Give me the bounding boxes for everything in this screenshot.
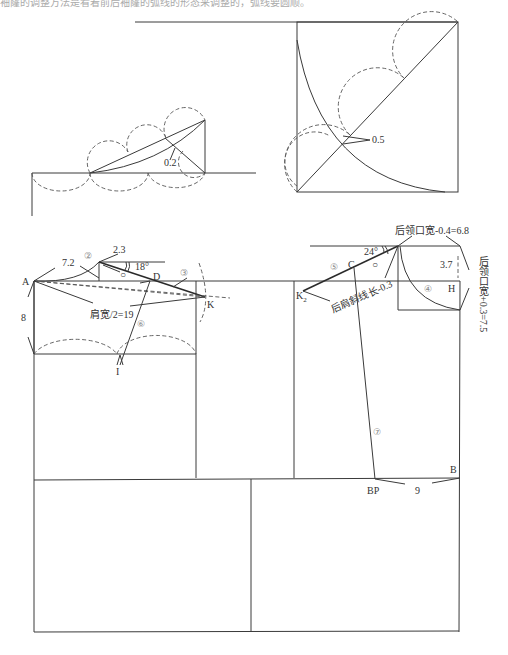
point-b: B xyxy=(450,464,457,475)
dim-9: 9 xyxy=(415,485,420,496)
circle-mark-front: ○ xyxy=(120,269,126,280)
main-pattern xyxy=(34,281,460,632)
front-bodice: A 7.2 2.3 ② 18° ○ D ③ K 8 肩宽/2=19 ⑥ I xyxy=(21,244,230,377)
point-h: H xyxy=(448,283,455,294)
point-i: I xyxy=(116,366,119,377)
back-neck-width-label: 后领口宽-0.4=6.8 xyxy=(395,224,469,236)
point-k: K xyxy=(207,299,215,310)
point-d: D xyxy=(153,271,160,282)
step-6: ⑥ xyxy=(137,319,145,329)
detail-right-neckline: 0.5 xyxy=(135,12,458,192)
step-3: ③ xyxy=(180,268,188,278)
circle-mark-back: ○ xyxy=(372,259,378,270)
label-0-2: 0.2 xyxy=(164,157,177,168)
step-2: ② xyxy=(84,251,92,261)
angle-18: 18° xyxy=(135,261,149,272)
point-c: C xyxy=(348,259,355,270)
step-5: ⑤ xyxy=(330,262,338,272)
dim-2-3: 2.3 xyxy=(113,244,126,255)
angle-24: 24° xyxy=(364,246,378,257)
pattern-diagram: 0.2 0.5 xyxy=(0,0,508,655)
detail-left-armhole: 0.2 xyxy=(32,108,256,216)
point-bp: BP xyxy=(367,485,380,496)
dim-7-2: 7.2 xyxy=(62,257,75,268)
back-neck-depth-label: 后领口宽+0.3=7.5 xyxy=(478,256,489,332)
shoulder-width-label: 肩宽/2=19 xyxy=(90,308,133,320)
dim-8: 8 xyxy=(21,312,26,323)
back-shoulder-label: 后肩斜线长-0.3 xyxy=(329,277,394,315)
dim-3-7: 3.7 xyxy=(440,259,453,270)
step-4: ④ xyxy=(424,284,432,294)
point-a: A xyxy=(22,276,30,287)
label-0-5: 0.5 xyxy=(372,134,385,145)
step-7: ⑦ xyxy=(373,427,381,437)
